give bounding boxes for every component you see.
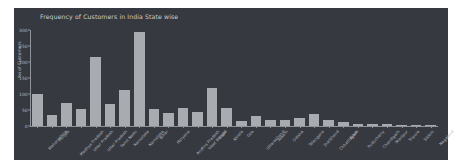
- x-tick-mark: [81, 126, 82, 128]
- y-tick-label: 250: [19, 44, 27, 49]
- bar: [47, 115, 57, 126]
- x-tick-mark: [372, 126, 373, 128]
- x-tick-label: Kerala: [232, 129, 244, 142]
- x-tick-mark: [285, 126, 286, 128]
- y-tick-label: 100: [19, 92, 27, 97]
- x-tick-mark: [402, 126, 403, 128]
- x-tick-mark: [52, 126, 53, 128]
- chart-figure: Frequency of Customers in India State wi…: [14, 8, 448, 160]
- x-tick-mark: [183, 126, 184, 128]
- x-tick-label: Assam: [276, 129, 289, 142]
- x-tick-mark: [256, 126, 257, 128]
- x-tick-mark: [387, 126, 388, 128]
- bar: [134, 32, 144, 126]
- x-tick-mark: [358, 126, 359, 128]
- screenshot-root: Frequency of Customers in India State wi…: [0, 0, 462, 167]
- x-tick-mark: [314, 126, 315, 128]
- x-tick-mark: [66, 126, 67, 128]
- bar: [294, 118, 304, 126]
- bar: [32, 94, 42, 126]
- x-tick-mark: [212, 126, 213, 128]
- bar: [76, 109, 86, 126]
- x-tick-mark: [270, 126, 271, 128]
- y-tick-label: 200: [19, 60, 27, 65]
- x-axis-line: [30, 126, 438, 127]
- y-tick-mark: [28, 110, 30, 111]
- x-tick-label: Nagaland: [438, 129, 455, 146]
- x-tick-mark: [329, 126, 330, 128]
- x-tick-label: Odisha: [291, 129, 304, 143]
- y-tick-label: 150: [19, 76, 27, 81]
- x-tick-mark: [241, 126, 242, 128]
- bar: [251, 116, 261, 126]
- x-tick-label: Sikkim: [422, 129, 435, 142]
- x-tick-mark: [154, 126, 155, 128]
- x-tick-mark: [37, 126, 38, 128]
- x-tick-mark: [125, 126, 126, 128]
- bar: [207, 88, 217, 126]
- x-tick-mark: [110, 126, 111, 128]
- x-tick-mark: [96, 126, 97, 128]
- y-tick-mark: [28, 78, 30, 79]
- y-tick-mark: [28, 94, 30, 95]
- chart-title: Frequency of Customers in India State wi…: [40, 13, 178, 20]
- x-tick-mark: [227, 126, 228, 128]
- y-tick-label: 300: [19, 28, 27, 33]
- x-tick-label: Tripura: [407, 129, 420, 142]
- x-tick-label: Goa: [245, 129, 254, 138]
- bar: [90, 57, 100, 126]
- x-tick-mark: [168, 126, 169, 128]
- figure-inner: Frequency of Customers in India State wi…: [14, 8, 448, 160]
- y-tick-label: 0: [25, 124, 28, 129]
- bar: [119, 90, 129, 126]
- bar: [105, 104, 115, 126]
- x-tick-label: Punjab: [58, 129, 71, 142]
- bar: [221, 108, 231, 126]
- y-tick-mark: [28, 126, 30, 127]
- plot-area: 050100150200250300 MaharashtraPunjabMadh…: [30, 30, 438, 126]
- bar: [192, 112, 202, 126]
- bar: [163, 113, 173, 126]
- y-tick-mark: [28, 30, 30, 31]
- x-tick-mark: [416, 126, 417, 128]
- bar: [149, 109, 159, 126]
- y-tick-mark: [28, 46, 30, 47]
- bar: [178, 108, 188, 126]
- x-tick-mark: [198, 126, 199, 128]
- bar: [309, 114, 319, 126]
- x-tick-mark: [343, 126, 344, 128]
- bar: [61, 103, 71, 126]
- y-tick-label: 50: [22, 108, 28, 113]
- x-tick-label: Haryana: [175, 129, 190, 145]
- x-tick-mark: [300, 126, 301, 128]
- y-tick-mark: [28, 62, 30, 63]
- x-tick-mark: [431, 126, 432, 128]
- x-tick-mark: [139, 126, 140, 128]
